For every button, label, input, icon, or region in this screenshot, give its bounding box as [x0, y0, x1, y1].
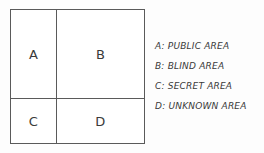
legend-label-b: B: BLIND AREA	[155, 62, 224, 71]
legend-item-a: A: PUBLIC AREA	[155, 36, 260, 56]
quadrant-cell-a: A	[11, 10, 56, 98]
legend-item-d: D: UNKNOWN AREA	[155, 96, 260, 116]
legend-item-c: C: SECRET AREA	[155, 76, 260, 96]
quadrant-grid: A B C D	[10, 9, 145, 144]
legend-item-b: B: BLIND AREA	[155, 56, 260, 76]
quadrant-label-c: C	[29, 115, 38, 128]
legend-label-c: C: SECRET AREA	[155, 82, 232, 91]
legend: A: PUBLIC AREA B: BLIND AREA C: SECRET A…	[155, 36, 260, 116]
quadrant-label-b: B	[96, 48, 105, 61]
quadrant-cell-b: B	[57, 10, 144, 98]
quadrant-label-d: D	[95, 115, 105, 128]
quadrant-cell-c: C	[11, 99, 56, 143]
legend-label-d: D: UNKNOWN AREA	[155, 102, 247, 111]
johari-window-diagram: A B C D A: PUBLIC AREA B: BLIND AREA C: …	[0, 0, 264, 153]
quadrant-label-a: A	[29, 48, 38, 61]
legend-label-a: A: PUBLIC AREA	[155, 42, 229, 51]
quadrant-cell-d: D	[57, 99, 144, 143]
